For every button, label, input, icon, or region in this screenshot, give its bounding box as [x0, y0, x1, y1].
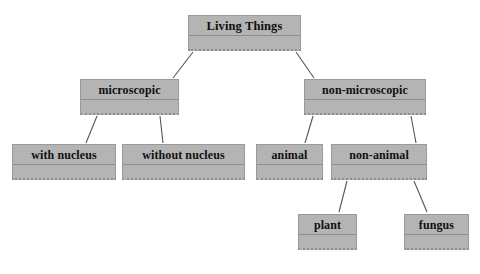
node-label-non-animal: non-animal	[332, 145, 426, 165]
connector-living-things-to-non-microscopic	[296, 52, 314, 78]
node-label-with-nucleus: with nucleus	[13, 145, 115, 165]
node-body	[189, 36, 300, 50]
node-label-non-microscopic: non-microscopic	[305, 80, 425, 100]
node-without-nucleus[interactable]: without nucleus	[122, 144, 245, 180]
node-microscopic[interactable]: microscopic	[80, 79, 179, 115]
connector-living-things-to-microscopic	[173, 52, 193, 78]
node-body	[332, 165, 426, 179]
connector-non-microscopic-to-animal	[305, 116, 313, 143]
node-body	[405, 235, 468, 249]
node-fungus[interactable]: fungus	[404, 214, 469, 250]
node-living-things[interactable]: Living Things	[188, 15, 301, 51]
node-body	[13, 165, 115, 179]
connector-microscopic-to-with-nucleus	[86, 116, 97, 143]
node-label-fungus: fungus	[405, 215, 468, 235]
connector-non-microscopic-to-non-animal	[411, 116, 416, 143]
node-with-nucleus[interactable]: with nucleus	[12, 144, 116, 180]
node-animal[interactable]: animal	[256, 144, 323, 180]
node-label-microscopic: microscopic	[81, 80, 178, 100]
node-plant[interactable]: plant	[298, 214, 357, 250]
node-label-living-things: Living Things	[189, 16, 300, 36]
node-body	[257, 165, 322, 179]
classification-diagram: Living Things microscopic non-microscopi…	[0, 0, 480, 274]
connector-microscopic-to-without-nucleus	[160, 116, 163, 143]
node-label-without-nucleus: without nucleus	[123, 145, 244, 165]
node-body	[305, 100, 425, 114]
node-body	[81, 100, 178, 114]
node-body	[123, 165, 244, 179]
node-non-animal[interactable]: non-animal	[331, 144, 427, 180]
node-label-animal: animal	[257, 145, 322, 165]
node-label-plant: plant	[299, 215, 356, 235]
node-non-microscopic[interactable]: non-microscopic	[304, 79, 426, 115]
connector-non-animal-to-plant	[339, 181, 347, 212]
connector-non-animal-to-fungus	[414, 181, 427, 212]
node-body	[299, 235, 356, 249]
